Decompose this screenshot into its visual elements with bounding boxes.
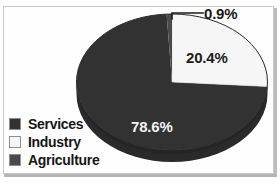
legend-swatch-agriculture: [9, 154, 21, 166]
legend-item-agriculture: Agriculture: [9, 151, 121, 169]
legend-label-services: Services: [28, 117, 83, 132]
legend-item-industry: Industry: [9, 133, 121, 151]
pie-value-label-industry: 20.4%: [186, 49, 228, 66]
legend-swatch-services: [9, 118, 21, 130]
chart-legend: Services Industry Agriculture: [9, 115, 121, 169]
pie-value-label-services: 78.6%: [131, 118, 173, 135]
legend-swatch-industry: [9, 136, 21, 148]
legend-item-services: Services: [9, 115, 121, 133]
chart-screenshot: 0.9% 20.4% 78.6% Services Industry Agric…: [0, 0, 280, 186]
legend-label-industry: Industry: [28, 135, 81, 150]
pie-value-label-agriculture: 0.9%: [204, 5, 237, 22]
legend-label-agriculture: Agriculture: [28, 153, 99, 168]
